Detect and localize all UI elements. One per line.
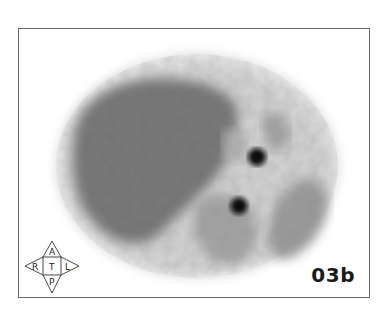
orientation-center: T (48, 262, 55, 272)
hotspot-lower (231, 198, 248, 215)
orientation-anterior: A (49, 247, 56, 257)
hotspot-upper (248, 148, 266, 166)
orientation-right: R (32, 262, 38, 272)
orientation-posterior: P (49, 277, 55, 287)
scan-frame: 03b A R T L P (18, 28, 370, 298)
orientation-marker: A R T L P (21, 237, 83, 295)
orientation-left: L (65, 262, 70, 272)
figure-label: 03b (311, 263, 355, 287)
